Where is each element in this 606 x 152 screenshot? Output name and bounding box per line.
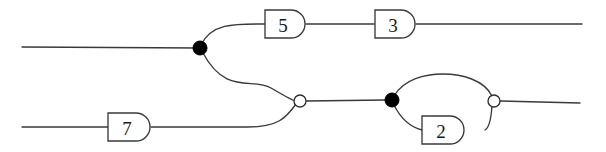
strand-loop-bottom-right bbox=[485, 106, 492, 130]
node-d-open-vertex[interactable] bbox=[488, 95, 500, 107]
strand-loop-top bbox=[394, 74, 492, 96]
node-b-open-vertex[interactable] bbox=[294, 95, 306, 107]
strand-loop-bottom-left bbox=[394, 105, 422, 130]
strand-7-to-b bbox=[151, 104, 296, 127]
strand-b-to-c bbox=[306, 100, 386, 101]
box-2[interactable]: 2 bbox=[422, 116, 464, 144]
box-layer: 5372 bbox=[108, 10, 464, 144]
strand-layer bbox=[22, 24, 582, 130]
box-3[interactable]: 3 bbox=[375, 10, 415, 38]
strand-a-to-b bbox=[203, 53, 295, 101]
box-7[interactable]: 7 bbox=[108, 113, 150, 141]
node-a-filled-vertex[interactable] bbox=[193, 41, 207, 55]
diagram-canvas: 5372 bbox=[0, 0, 606, 152]
box-2-label: 2 bbox=[436, 121, 446, 142]
node-c-filled-vertex[interactable] bbox=[385, 93, 399, 107]
box-7-label: 7 bbox=[122, 118, 132, 139]
strand-d-output bbox=[500, 101, 580, 103]
box-5-label: 5 bbox=[278, 15, 288, 36]
box-5[interactable]: 5 bbox=[265, 10, 305, 38]
box-3-label: 3 bbox=[388, 15, 398, 36]
strand-input-top bbox=[22, 47, 200, 48]
strand-a-to-5 bbox=[201, 24, 265, 45]
tangle-diagram: 5372 bbox=[0, 0, 606, 152]
